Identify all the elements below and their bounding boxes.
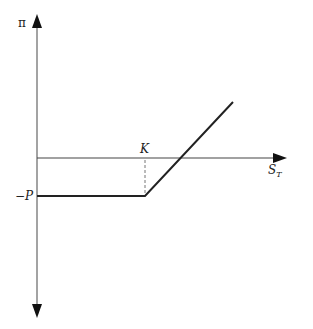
y-axis-label: π bbox=[18, 16, 26, 30]
arrow-right-icon bbox=[273, 153, 287, 163]
x-axis bbox=[37, 153, 287, 163]
strike-label: K bbox=[139, 142, 150, 156]
payoff-line bbox=[37, 102, 233, 196]
arrow-down-icon bbox=[32, 304, 42, 318]
payoff-diagram: π ST K −P bbox=[0, 0, 313, 329]
arrow-up-icon bbox=[32, 14, 42, 28]
x-axis-label: ST bbox=[268, 163, 282, 179]
premium-label: −P bbox=[15, 189, 34, 203]
y-axis bbox=[32, 14, 42, 318]
